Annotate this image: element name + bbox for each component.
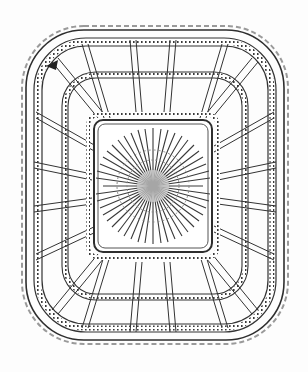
glass-dish-image: Line illustration of a square scalloped-… (0, 0, 308, 372)
dish-illustration (0, 0, 308, 372)
starburst-center (96, 128, 210, 244)
